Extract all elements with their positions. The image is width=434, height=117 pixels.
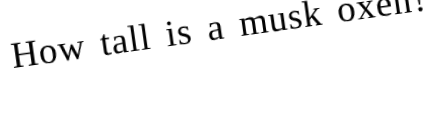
image-canvas: How tall is a musk oxen? — [0, 0, 434, 117]
question-text: How tall is a musk oxen? — [9, 0, 432, 75]
